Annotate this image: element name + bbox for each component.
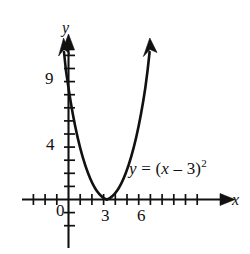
equation-y-symbol: y — [129, 159, 137, 178]
equation-minus-three: – 3) — [169, 159, 201, 178]
x-tick-label-3: 3 — [101, 207, 110, 224]
equation-x-symbol: x — [161, 159, 169, 178]
equation-exponent: 2 — [201, 157, 207, 169]
y-tick-label-4: 4 — [46, 136, 55, 153]
y-tick-label-9: 9 — [45, 70, 54, 87]
x-tick-label-0: 0 — [56, 202, 65, 219]
equation-annotation: y = (x – 3)2 — [129, 160, 207, 177]
x-axis-label: x — [232, 192, 239, 208]
parabola-left-branch — [64, 52, 107, 200]
plot-canvas — [0, 0, 250, 254]
parabola-figure: y x 9 4 0 3 6 y = (x – 3)2 — [0, 0, 250, 254]
y-axis-label: y — [62, 20, 69, 36]
equation-equals: = ( — [137, 159, 162, 178]
x-tick-label-6: 6 — [137, 207, 146, 224]
